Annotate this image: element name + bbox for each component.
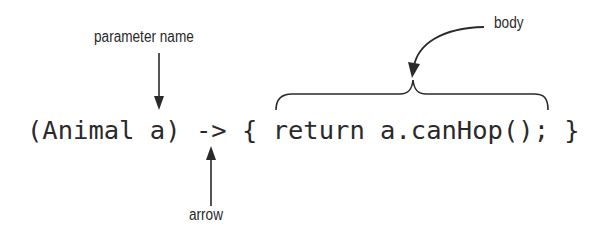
annotation-arrows bbox=[0, 0, 612, 236]
curved-arrow-icon bbox=[408, 27, 484, 78]
arrow-down-icon bbox=[154, 53, 164, 110]
arrow-up-icon bbox=[206, 146, 216, 206]
curly-brace-icon bbox=[276, 80, 548, 110]
